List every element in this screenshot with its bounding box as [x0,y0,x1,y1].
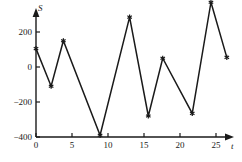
data-point-marker [34,46,39,51]
chart-container: S t 2000−200−400 0510152025 [0,0,242,162]
y-tick-label: 0 [0,63,32,72]
y-axis-label: S [38,4,43,13]
x-axis-label: t [231,142,234,151]
x-tick-label: 15 [132,141,156,150]
line-chart-plot [0,0,242,162]
x-tick-label: 25 [204,141,228,150]
axes-group [33,8,234,140]
data-point-marker [209,0,214,5]
data-point-marker [127,15,132,20]
data-point-marker [49,84,54,89]
x-tick-label: 20 [168,141,192,150]
data-series-line [36,2,227,135]
x-tick-label: 10 [96,141,120,150]
y-tick-label: −200 [0,98,32,107]
y-tick-label: 200 [0,28,32,37]
data-point-marker [61,38,66,43]
data-point-marker [225,55,230,60]
x-tick-label: 0 [24,141,48,150]
data-point-marker [146,113,151,118]
x-axis-arrowhead [225,134,234,141]
x-tick-label: 5 [60,141,84,150]
